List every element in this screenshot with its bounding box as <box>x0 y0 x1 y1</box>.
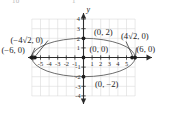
xtick-label: 3 <box>108 60 111 67</box>
ellipse-graph-figure: 10 1 <box>0 0 171 113</box>
label-minus-6: (−6, 0) <box>2 45 26 55</box>
y-axis-arrow-down <box>81 99 86 104</box>
ytick-label: -3 <box>75 83 80 90</box>
label-0-0: (0, 0) <box>90 44 109 54</box>
coordinate-plane-plot: -5 -4 -3 -2 -1 1 2 3 4 5 4 3 2 1 -1 -2 -… <box>0 0 171 113</box>
ytick-label: 3 <box>77 25 80 32</box>
label-6: (6, 0) <box>137 44 156 54</box>
y-axis-arrow-up <box>81 13 86 18</box>
marker-vertex-right <box>133 56 137 60</box>
ytick-label: -1 <box>75 63 80 70</box>
leader-4root2 <box>126 42 132 56</box>
xtick-label: -3 <box>55 60 60 67</box>
label-0-2: (0, 2) <box>94 27 113 37</box>
x-axis-arrow-right <box>147 55 153 61</box>
ytick-label: -4 <box>75 92 81 99</box>
marker-co-vertex-top <box>82 36 86 40</box>
xtick-label: 2 <box>99 60 102 67</box>
label-0-minus2: (0, −2) <box>95 79 119 89</box>
xtick-label: 4 <box>116 60 120 67</box>
xtick-label: -4 <box>46 60 52 67</box>
ytick-label: 1 <box>77 44 80 51</box>
marker-co-vertex-bottom <box>82 75 86 79</box>
marker-focus-left <box>33 56 37 60</box>
cropped-header-text-left: 10 <box>12 0 19 5</box>
marker-center <box>82 56 86 60</box>
xtick-label: -5 <box>38 60 43 67</box>
xtick-label: 5 <box>125 60 128 67</box>
xtick-label: 1 <box>90 60 93 67</box>
cropped-header-text-right: 1 <box>72 0 76 5</box>
y-axis-label: y <box>86 5 91 14</box>
label-4root2: (4√2, 0) <box>121 31 149 41</box>
label-minus-4root2: (−4√2, 0) <box>11 35 44 45</box>
xtick-label: -2 <box>64 60 69 67</box>
